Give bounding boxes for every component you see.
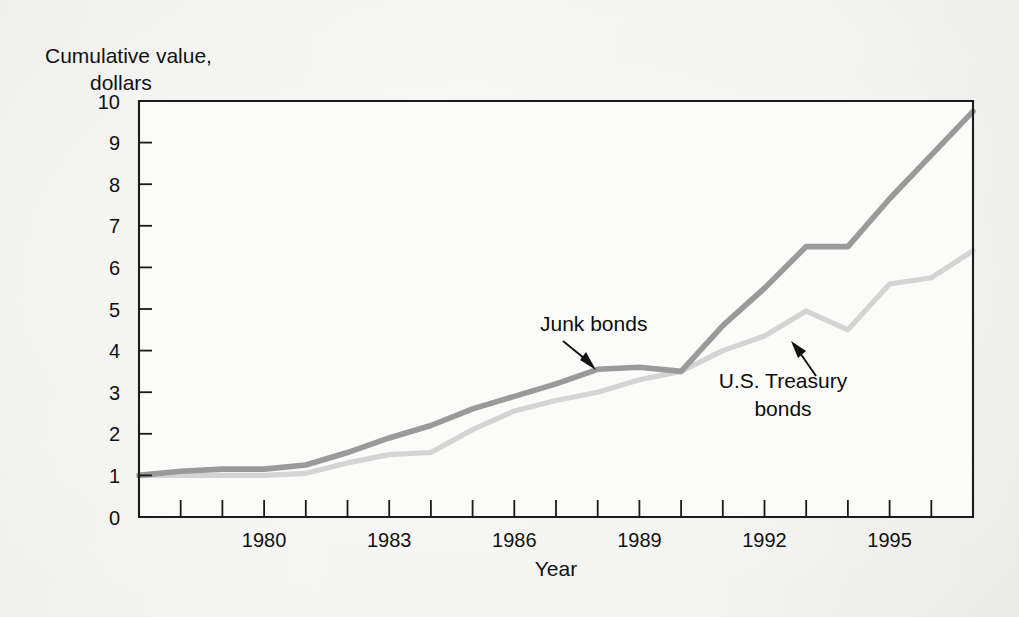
- y-axis-title-line2: dollars: [90, 71, 152, 94]
- annotation-treasury-bonds-label-line2: bonds: [754, 397, 811, 420]
- x-axis-title: Year: [535, 557, 577, 580]
- y-tick-label: 4: [109, 340, 120, 362]
- x-tick-label: 1992: [742, 529, 787, 551]
- x-tick-label: 1986: [492, 529, 537, 551]
- figure-page: 012345678910 198019831986198919921995 Cu…: [0, 0, 1019, 617]
- annotation-treasury-bonds-label-line1: U.S. Treasury: [719, 369, 848, 392]
- y-tick-label: 0: [109, 507, 120, 529]
- y-tick-label: 9: [109, 132, 120, 154]
- x-tick-label: 1983: [367, 529, 412, 551]
- y-tick-label: 6: [109, 257, 120, 279]
- x-tick-label: 1980: [242, 529, 287, 551]
- line-chart: 012345678910 198019831986198919921995 Cu…: [0, 0, 1019, 617]
- x-tick-label: 1995: [867, 529, 912, 551]
- annotation-junk-bonds-label: Junk bonds: [540, 312, 647, 335]
- x-tick-label: 1989: [617, 529, 662, 551]
- y-tick-label: 7: [109, 215, 120, 237]
- y-tick-label: 5: [109, 299, 120, 321]
- y-tick-label: 1: [109, 465, 120, 487]
- plot-area-background: [139, 101, 973, 517]
- chart-figure: 012345678910 198019831986198919921995 Cu…: [0, 0, 1019, 617]
- y-axis-title-line1: Cumulative value,: [45, 44, 212, 67]
- y-tick-label: 8: [109, 174, 120, 196]
- y-tick-label: 2: [109, 423, 120, 445]
- y-tick-label: 3: [109, 382, 120, 404]
